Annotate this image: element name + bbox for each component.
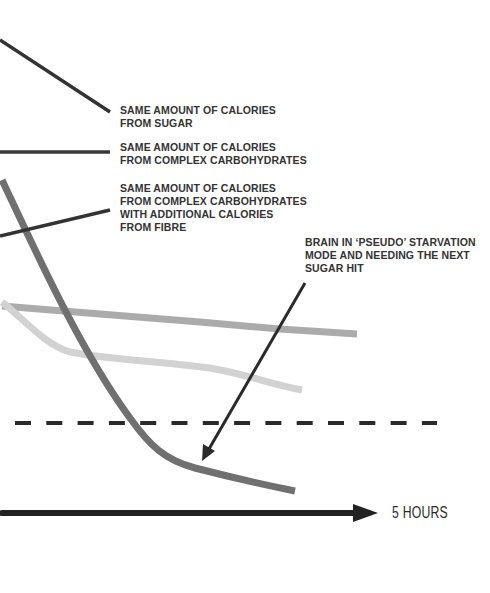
annotation-label: BRAIN IN ‘PSEUDO’ STARVATION MODE AND NE… bbox=[305, 236, 476, 275]
annotation-label-line: MODE AND NEEDING THE NEXT bbox=[305, 249, 476, 262]
annotation-label-line: SUGAR HIT bbox=[305, 262, 476, 275]
legend-label-line: FROM COMPLEX CARBOHYDRATES bbox=[120, 195, 307, 208]
annotation-arrow-shaft bbox=[209, 283, 305, 449]
legend-label-line: SAME AMOUNT OF CALORIES bbox=[120, 104, 276, 117]
legend-label-complex: SAME AMOUNT OF CALORIES FROM COMPLEX CAR… bbox=[120, 141, 307, 167]
legend-label-line: FROM FIBRE bbox=[120, 221, 307, 234]
legend-label-line: SAME AMOUNT OF CALORIES bbox=[120, 141, 307, 154]
legend-label-line: FROM SUGAR bbox=[120, 117, 276, 130]
legend-label-fibre: SAME AMOUNT OF CALORIES FROM COMPLEX CAR… bbox=[120, 182, 307, 234]
time-axis-arrowhead-icon bbox=[353, 504, 378, 522]
time-axis-label: 5 HOURS bbox=[392, 503, 448, 523]
legend-label-line: FROM COMPLEX CARBOHYDRATES bbox=[120, 154, 307, 167]
legend-label-sugar: SAME AMOUNT OF CALORIES FROM SUGAR bbox=[120, 104, 276, 130]
legend-leader-sugar bbox=[0, 40, 110, 112]
legend-label-line: WITH ADDITIONAL CALORIES bbox=[120, 208, 307, 221]
legend-label-line: SAME AMOUNT OF CALORIES bbox=[120, 182, 307, 195]
annotation-label-line: BRAIN IN ‘PSEUDO’ STARVATION bbox=[305, 236, 476, 249]
annotation-arrowhead-icon bbox=[202, 444, 215, 461]
series-fibre-line bbox=[2, 306, 357, 334]
